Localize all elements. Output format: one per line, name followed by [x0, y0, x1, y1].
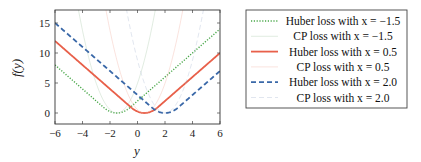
y-tick-label: 0: [45, 107, 51, 119]
plot-frame: [55, 10, 220, 124]
x-tick-label: −6: [49, 127, 61, 139]
series-line-4: [55, 23, 220, 113]
y-tick-label: 5: [45, 77, 51, 89]
x-axis-label: y: [132, 143, 140, 158]
x-tick-label: −2: [104, 127, 116, 139]
legend-label: Huber loss with x = −1.5: [286, 15, 401, 27]
legend-label: Huber loss with x = 0.5: [289, 46, 397, 58]
plot-series: [55, 0, 220, 113]
legend: Huber loss with x = −1.5CP loss with x =…: [246, 10, 407, 108]
x-tick-label: 4: [190, 127, 196, 139]
x-tick-label: 0: [135, 127, 141, 139]
legend-label: CP loss with x = 2.0: [297, 92, 390, 104]
y-tick-label: 15: [39, 17, 51, 29]
y-axis-ticks: 051015: [39, 17, 220, 119]
x-axis-ticks: −6−4−20246: [49, 10, 223, 139]
legend-label: CP loss with x = −1.5: [293, 30, 393, 42]
series-line-1: [55, 0, 220, 113]
series-line-0: [55, 29, 220, 113]
x-tick-label: 2: [162, 127, 168, 139]
x-tick-label: −4: [77, 127, 89, 139]
legend-label: Huber loss with x = 2.0: [289, 76, 397, 88]
legend-label: CP loss with x = 0.5: [297, 61, 390, 73]
x-tick-label: 6: [217, 127, 223, 139]
y-tick-label: 10: [39, 47, 51, 59]
y-axis-label: f(y): [9, 59, 24, 77]
series-line-2: [55, 41, 220, 113]
loss-chart: −6−4−20246 051015 y f(y) Huber loss with…: [0, 0, 421, 162]
